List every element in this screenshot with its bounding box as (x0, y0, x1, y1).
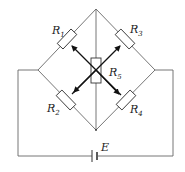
resistor-r4-label: R4 (129, 103, 143, 118)
resistor-r2-label: R2 (46, 102, 60, 117)
junction-dot (95, 129, 97, 131)
resistor-r5-label: R5 (108, 66, 122, 81)
resistor-r1-label: R1 (51, 24, 65, 39)
resistor-r3-label: R3 (129, 23, 143, 38)
battery-symbol (92, 150, 97, 162)
circuit-diagram: E R1 R3 R2 R4 R5 (0, 0, 185, 172)
battery-label: E (100, 141, 109, 154)
